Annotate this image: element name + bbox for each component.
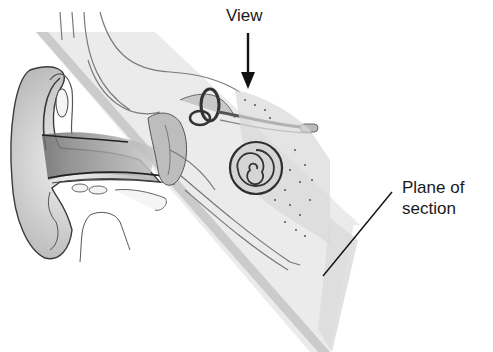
plane-label-line2: section bbox=[402, 198, 464, 219]
plane-label-line1: Plane of bbox=[402, 177, 464, 198]
ear-illustration bbox=[0, 0, 493, 352]
plane-of-section-label: Plane of section bbox=[402, 177, 464, 219]
ear-diagram: View Plane of section bbox=[0, 0, 493, 352]
view-label: View bbox=[226, 5, 263, 26]
view-arrow bbox=[241, 33, 255, 89]
cochlea bbox=[230, 142, 282, 194]
